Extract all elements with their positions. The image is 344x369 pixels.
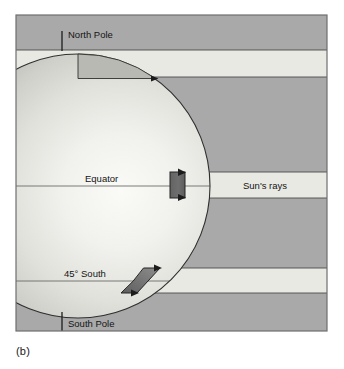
figure-container: North Pole Equator 45° South South Pole … bbox=[0, 0, 344, 369]
north-pole-label: North Pole bbox=[68, 29, 113, 40]
patch-equator bbox=[170, 172, 185, 198]
equator-label: Equator bbox=[85, 173, 118, 184]
earth-sun-rays-diagram: North Pole Equator 45° South South Pole … bbox=[0, 0, 344, 369]
figure-caption: (b) bbox=[16, 345, 30, 357]
panel-group: North Pole Equator 45° South South Pole … bbox=[0, 15, 327, 331]
patch-equator-group bbox=[170, 172, 185, 198]
suns-rays-label: Sun's rays bbox=[243, 180, 287, 191]
forty-five-south-label: 45° South bbox=[64, 268, 106, 279]
south-pole-label: South Pole bbox=[68, 318, 114, 329]
